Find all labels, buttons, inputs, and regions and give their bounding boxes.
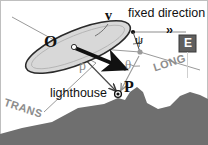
diagram-canvas: O v fixed direction ›› ψ θ ρ E LONG TRAN… xyxy=(0,0,208,145)
label-observer-o: O xyxy=(44,33,57,50)
label-rho: ρ xyxy=(79,59,86,73)
label-fixed-direction: fixed direction xyxy=(128,7,205,20)
point-p-dot xyxy=(116,92,119,95)
label-lighthouse: lighthouse xyxy=(50,87,107,100)
fixed-direction-chevrons-icon: ›› xyxy=(166,24,172,36)
vertex-node xyxy=(137,49,142,54)
label-east-badge: E xyxy=(184,37,192,49)
label-point-p: P xyxy=(124,79,134,95)
diagram-vector-layer xyxy=(0,0,208,145)
label-theta-angle: θ xyxy=(125,58,131,71)
ship-pivot-dot xyxy=(71,44,76,49)
label-velocity-v: v xyxy=(105,9,112,23)
label-psi-angle: ψ xyxy=(135,33,143,46)
